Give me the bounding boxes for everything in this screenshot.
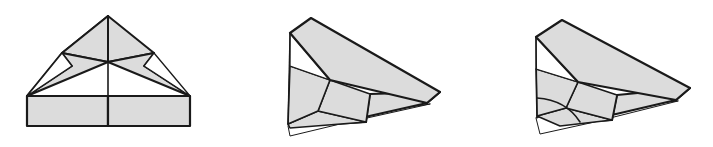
body-rectangle-left <box>27 96 108 126</box>
diagram-canvas <box>0 0 713 147</box>
body-rectangle-right <box>108 96 190 126</box>
paper-folding-diagram <box>0 0 713 147</box>
